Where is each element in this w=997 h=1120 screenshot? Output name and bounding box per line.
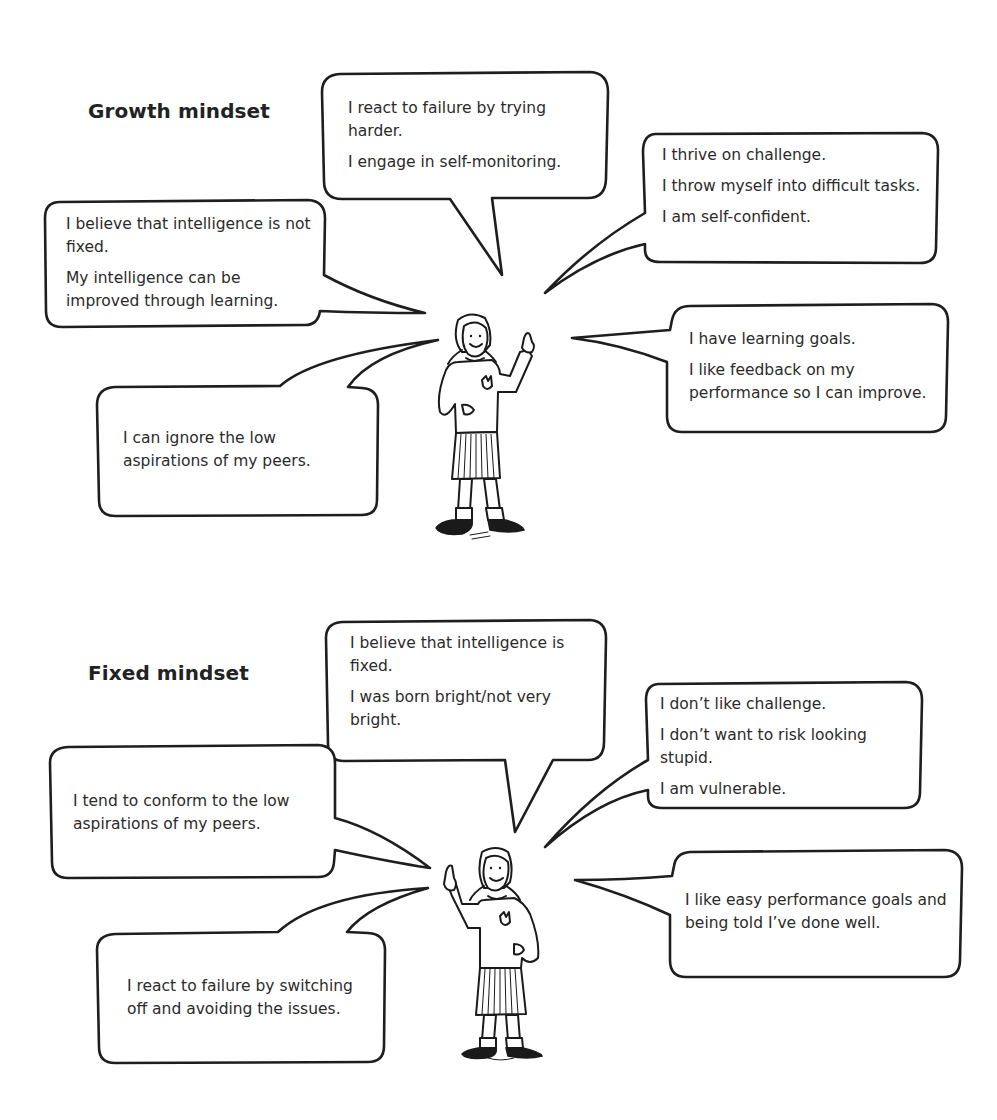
bubble-line: I believe that intelligence is not fixed… xyxy=(66,213,316,259)
fixed-figure xyxy=(444,848,542,1060)
growth-right-bubble: I have learning goals. I like feedback o… xyxy=(689,328,944,405)
bubble-line: I like feedback on my performance so I c… xyxy=(689,359,944,405)
bubble-line: I was born bright/not very bright. xyxy=(350,686,595,732)
growth-bottom-left-bubble: I can ignore the low aspirations of my p… xyxy=(123,427,333,473)
bubble-line: I throw myself into difficult tasks. xyxy=(662,175,927,198)
growth-figure xyxy=(436,314,534,539)
fixed-bottom-left-bubble: I react to failure by switching off and … xyxy=(127,975,377,1021)
fixed-left-bubble: I tend to conform to the low aspirations… xyxy=(73,790,318,836)
bubble-line: I am vulnerable. xyxy=(660,778,910,801)
growth-top-bubble: I react to failure by trying harder. I e… xyxy=(348,97,598,174)
fixed-top-bubble: I believe that intelligence is fixed. I … xyxy=(350,632,595,732)
bubble-line: I engage in self-monitoring. xyxy=(348,151,598,174)
bubble-line: I don’t like challenge. xyxy=(660,693,910,716)
bubble-line: I am self-confident. xyxy=(662,206,927,229)
growth-left-bubble: I believe that intelligence is not fixed… xyxy=(66,213,316,313)
growth-mindset-title: Growth mindset xyxy=(88,99,270,123)
bubble-line: I have learning goals. xyxy=(689,328,944,351)
bubble-line: I react to failure by switching off and … xyxy=(127,975,377,1021)
bubble-line: I like easy performance goals and being … xyxy=(685,889,950,935)
bubble-line: I can ignore the low aspirations of my p… xyxy=(123,427,333,473)
bubble-line: I thrive on challenge. xyxy=(662,144,927,167)
bubble-line: My intelligence can be improved through … xyxy=(66,267,316,313)
fixed-top-right-bubble: I don’t like challenge. I don’t want to … xyxy=(660,693,910,801)
bubble-line: I react to failure by trying harder. xyxy=(348,97,598,143)
fixed-right-bubble: I like easy performance goals and being … xyxy=(685,889,950,935)
bubble-line: I believe that intelligence is fixed. xyxy=(350,632,595,678)
mindset-diagram: Growth mindset I react to failure by try… xyxy=(0,0,997,1120)
bubble-line: I tend to conform to the low aspirations… xyxy=(73,790,318,836)
growth-top-right-bubble: I thrive on challenge. I throw myself in… xyxy=(662,144,927,229)
fixed-mindset-title: Fixed mindset xyxy=(88,661,249,685)
bubble-line: I don’t want to risk looking stupid. xyxy=(660,724,910,770)
